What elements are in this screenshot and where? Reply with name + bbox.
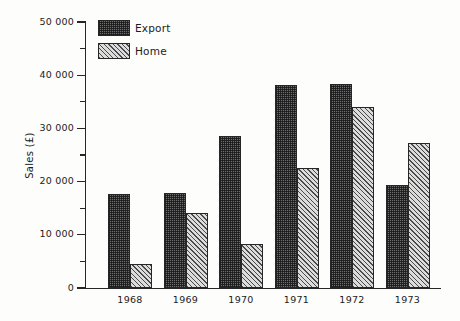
y-axis-tick-label: 40 000 (12, 69, 74, 80)
x-axis-tick-label: 1968 (100, 294, 160, 305)
bar-export-1969 (164, 193, 186, 288)
bar-export-1968 (108, 194, 130, 288)
legend-swatch-export-icon (98, 20, 130, 36)
y-axis-tick-label: 0 (12, 282, 74, 293)
bar-home-1969 (186, 213, 208, 288)
y-axis-tick-label: 10 000 (12, 228, 74, 239)
bar-home-1970 (241, 244, 263, 288)
x-axis-tick-label: 1970 (211, 294, 271, 305)
bar-home-1971 (297, 168, 319, 288)
bar-chart-figure: Sales (£) 010 00020 00030 00040 00050 00… (0, 0, 460, 321)
y-axis-tick-label: 20 000 (12, 175, 74, 186)
y-axis-tick-label: 50 000 (12, 16, 74, 27)
x-axis-tick-label: 1973 (378, 294, 438, 305)
x-axis-line (85, 288, 441, 289)
legend: Export Home (98, 17, 228, 63)
bar-home-1973 (408, 143, 430, 288)
bar-home-1972 (352, 107, 374, 288)
x-axis-tick-label: 1969 (156, 294, 216, 305)
bar-export-1970 (219, 136, 241, 288)
legend-label-home: Home (135, 45, 167, 57)
bar-home-1968 (130, 264, 152, 288)
y-axis-tick-labels: 010 00020 00030 00040 00050 000 (8, 0, 74, 321)
x-axis-tick-label: 1972 (322, 294, 382, 305)
x-axis-tick-label: 1971 (267, 294, 327, 305)
legend-swatch-home-icon (98, 43, 130, 59)
legend-item-export: Export (98, 17, 228, 38)
bar-export-1973 (386, 185, 408, 288)
legend-label-export: Export (135, 22, 171, 34)
bar-export-1971 (275, 85, 297, 288)
legend-item-home: Home (98, 40, 228, 61)
bar-export-1972 (330, 84, 352, 288)
y-axis-tick-label: 30 000 (12, 122, 74, 133)
x-axis-tick-labels: 196819691970197119721973 (86, 294, 440, 312)
